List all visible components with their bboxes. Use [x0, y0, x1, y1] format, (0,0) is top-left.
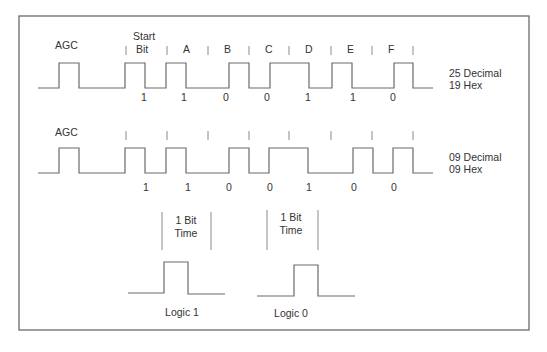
bit-value: 0	[264, 91, 270, 103]
bit-value: 1	[185, 181, 191, 193]
bit-value: 1	[350, 91, 356, 103]
bit-value: 1	[305, 91, 311, 103]
bit-time-line1: 1 Bit	[175, 214, 196, 226]
bit-letter-a: A	[183, 43, 190, 55]
bit-letter-c: C	[265, 43, 273, 55]
bit-value: 0	[223, 91, 229, 103]
bit-value: 0	[351, 181, 357, 193]
logic-1-label: Logic 1	[165, 306, 199, 318]
hex-label-1: 19 Hex	[449, 79, 483, 91]
bit-value: 0	[267, 181, 273, 193]
logic-1-legend: 1 Bit Time Logic 1	[128, 212, 225, 318]
bit-time-line2: Time	[280, 224, 303, 236]
agc-label-2: AGC	[55, 126, 78, 138]
bit-value: 0	[391, 181, 397, 193]
start-label-line1: Start	[133, 30, 155, 42]
bit-value: 1	[143, 181, 149, 193]
waveform-1: AGC Start Bit A B C D E F 1 1 0 0 1 1 0 …	[38, 30, 502, 103]
decimal-label-1: 25 Decimal	[449, 67, 502, 79]
hex-label-2: 09 Hex	[449, 163, 483, 175]
decimal-label-2: 09 Decimal	[449, 151, 502, 163]
logic-1-pulse	[128, 262, 225, 294]
bit-value: 0	[226, 181, 232, 193]
bit-value: 1	[306, 181, 312, 193]
logic-0-pulse	[257, 265, 355, 296]
bit-time-line2: Time	[175, 227, 198, 239]
signal-trace-1	[38, 63, 433, 88]
logic-0-label: Logic 0	[274, 307, 308, 319]
bit-letter-f: F	[388, 43, 394, 55]
bit-time-line1: 1 Bit	[280, 211, 301, 223]
bit-value: 1	[181, 91, 187, 103]
ir-encoding-diagram: AGC Start Bit A B C D E F 1 1 0 0 1 1 0 …	[0, 0, 547, 352]
waveform-2: AGC 1 1 0 0 1 0 0 09 Decimal 09 Hex	[38, 126, 502, 193]
bit-letter-e: E	[347, 43, 354, 55]
start-label-line2: Bit	[136, 43, 148, 55]
signal-trace-2	[38, 148, 433, 173]
bit-value: 1	[141, 91, 147, 103]
agc-label-1: AGC	[55, 39, 78, 51]
bit-value: 0	[390, 91, 396, 103]
logic-0-legend: 1 Bit Time Logic 0	[257, 210, 355, 319]
bit-letter-b: B	[224, 43, 231, 55]
bit-letter-d: D	[305, 43, 313, 55]
